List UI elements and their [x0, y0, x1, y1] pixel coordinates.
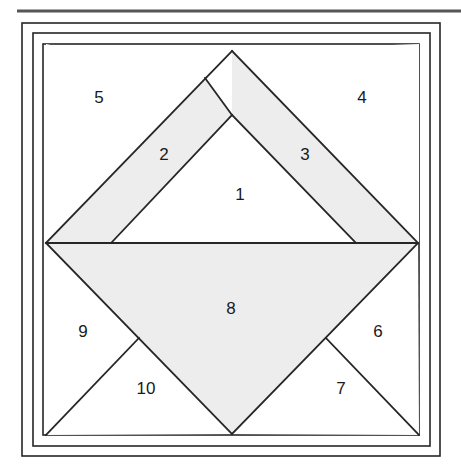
piece-label-2: 2 — [159, 145, 168, 164]
piece-label-1: 1 — [235, 185, 244, 204]
quilt-block-diagram: 12345678910 — [0, 0, 461, 474]
piece-label-9: 9 — [78, 322, 87, 341]
piece-label-3: 3 — [300, 145, 309, 164]
piece-label-10: 10 — [137, 379, 156, 398]
piece-label-5: 5 — [94, 88, 103, 107]
diagram-page: 12345678910 — [0, 0, 461, 474]
piece-label-6: 6 — [373, 322, 382, 341]
piece-label-4: 4 — [357, 88, 366, 107]
piece-label-7: 7 — [336, 379, 345, 398]
piece-label-8: 8 — [226, 299, 235, 318]
